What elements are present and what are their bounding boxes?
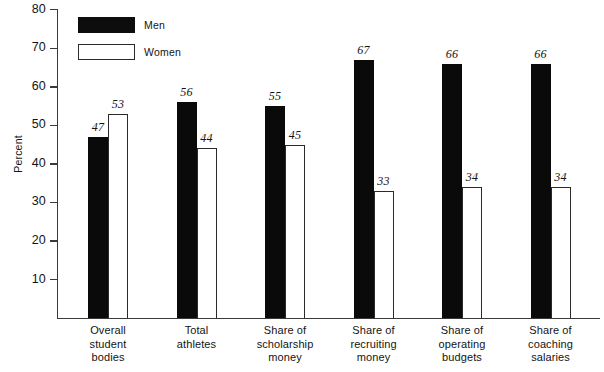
- x-category-label-line: salaries: [505, 351, 597, 365]
- y-tick-label-40: 40: [14, 156, 46, 170]
- y-tick-30: [50, 202, 58, 203]
- y-tick-60: [50, 86, 58, 87]
- x-category-label-line: money: [328, 351, 420, 365]
- y-axis-title: Percent: [12, 124, 24, 184]
- y-tick-80: [50, 9, 58, 10]
- x-category-label-line: Total: [151, 324, 243, 338]
- y-tick-label-30: 30: [14, 194, 46, 208]
- bar-value-men-4: 67: [347, 43, 381, 58]
- x-category-label-1: Overallstudentbodies: [62, 324, 154, 365]
- bar-women-6: [551, 187, 571, 318]
- bar-value-men-3: 55: [258, 89, 292, 104]
- y-tick-label-20: 20: [14, 233, 46, 247]
- bar-value-men-6: 66: [524, 47, 558, 62]
- x-category-label-line: money: [239, 351, 331, 365]
- legend-swatch-women: [78, 44, 135, 60]
- x-category-label-3: Share ofscholarshipmoney: [239, 324, 331, 365]
- y-tick-label-80: 80: [14, 2, 46, 16]
- bar-women-4: [374, 191, 394, 318]
- x-category-label-line: Share of: [239, 324, 331, 338]
- bar-men-6: [531, 64, 551, 318]
- bar-men-1: [88, 137, 108, 318]
- x-category-label-line: budgets: [416, 351, 508, 365]
- bar-value-men-5: 66: [435, 47, 469, 62]
- x-category-label-4: Share ofrecruitingmoney: [328, 324, 420, 365]
- x-category-label-line: Share of: [416, 324, 508, 338]
- bar-men-5: [442, 64, 462, 318]
- y-tick-label-10: 10: [14, 272, 46, 286]
- y-tick-10: [50, 279, 58, 280]
- y-tick-label-60: 60: [14, 79, 46, 93]
- x-category-label-5: Share ofoperatingbudgets: [416, 324, 508, 365]
- legend-label-women: Women: [144, 46, 181, 58]
- x-category-label-line: operating: [416, 338, 508, 352]
- y-tick-label-50: 50: [14, 117, 46, 131]
- y-tick-70: [50, 48, 58, 49]
- bar-value-women-6: 34: [544, 170, 578, 185]
- x-category-label-line: athletes: [151, 338, 243, 352]
- bar-value-women-5: 34: [455, 170, 489, 185]
- legend-swatch-men: [78, 17, 135, 33]
- x-category-label-line: coaching: [505, 338, 597, 352]
- x-category-label-line: scholarship: [239, 338, 331, 352]
- bar-women-5: [462, 187, 482, 318]
- bar-value-women-4: 33: [367, 174, 401, 189]
- x-category-label-line: recruiting: [328, 338, 420, 352]
- bar-men-4: [354, 60, 374, 318]
- x-category-label-line: Share of: [328, 324, 420, 338]
- bar-women-3: [285, 145, 305, 318]
- bar-value-men-2: 56: [170, 85, 204, 100]
- y-tick-label-70: 70: [14, 40, 46, 54]
- bar-value-women-1: 53: [101, 97, 135, 112]
- y-tick-20: [50, 240, 58, 241]
- x-category-label-line: Share of: [505, 324, 597, 338]
- bar-chart: Percent 1020304050607080 Men Women 4753O…: [0, 0, 604, 372]
- x-category-label-line: student: [62, 338, 154, 352]
- bar-women-2: [197, 148, 217, 318]
- y-tick-40: [50, 163, 58, 164]
- x-category-label-2: Totalathletes: [151, 324, 243, 351]
- x-category-label-line: bodies: [62, 351, 154, 365]
- x-axis-line: [57, 318, 600, 319]
- bar-value-women-2: 44: [190, 131, 224, 146]
- bar-value-women-3: 45: [278, 128, 312, 143]
- x-category-label-6: Share ofcoachingsalaries: [505, 324, 597, 365]
- y-tick-50: [50, 125, 58, 126]
- bar-women-1: [108, 114, 128, 318]
- x-category-label-line: Overall: [62, 324, 154, 338]
- legend-label-men: Men: [144, 19, 165, 31]
